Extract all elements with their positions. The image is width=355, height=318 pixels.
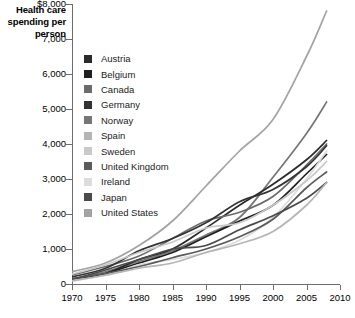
legend-item-label: Austria (101, 53, 131, 64)
legend-item[interactable]: Austria (84, 51, 169, 66)
legend-item-label: Belgium (101, 69, 135, 80)
legend-item-label: United Kingdom (101, 161, 169, 172)
legend-swatch-icon (84, 55, 92, 63)
legend-item[interactable]: Canada (84, 82, 169, 97)
legend-item-label: Ireland (101, 176, 130, 187)
legend-item[interactable]: Japan (84, 190, 169, 205)
y-axis-tick-label: 6,000 (6, 68, 66, 79)
legend-swatch-icon (84, 209, 92, 217)
legend-item[interactable]: Germany (84, 97, 169, 112)
legend-swatch-icon (84, 85, 92, 93)
x-axis-tick (139, 285, 140, 290)
x-axis-tick (307, 285, 308, 290)
legend-item-label: Japan (101, 192, 127, 203)
x-axis-tick (273, 285, 274, 290)
legend-item-label: Canada (101, 84, 134, 95)
y-axis-tick-label: 3,000 (6, 173, 66, 184)
legend-item[interactable]: Belgium (84, 66, 169, 81)
legend-swatch-icon (84, 101, 92, 109)
legend-item[interactable]: Spain (84, 128, 169, 143)
legend-item-label: Spain (101, 130, 125, 141)
y-axis-tick-label: 1,000 (6, 243, 66, 254)
x-axis-tick (240, 285, 241, 290)
legend-item-label: Germany (101, 99, 140, 110)
x-axis-tick (173, 285, 174, 290)
x-axis-tick (106, 285, 107, 290)
legend-item[interactable]: United Kingdom (84, 159, 169, 174)
legend-item[interactable]: United States (84, 205, 169, 220)
x-axis-tick-label: 2010 (320, 292, 355, 303)
legend-item[interactable]: Ireland (84, 174, 169, 189)
legend-item[interactable]: Sweden (84, 143, 169, 158)
y-axis-tick-label: 2,000 (6, 208, 66, 219)
legend-swatch-icon (84, 116, 92, 124)
y-axis-tick-label: $8,000 (6, 0, 66, 9)
legend-item-label: United States (101, 207, 158, 218)
x-axis-tick (72, 285, 73, 290)
y-axis-tick-label: 7,000 (6, 33, 66, 44)
legend-swatch-icon (84, 132, 92, 140)
legend-swatch-icon (84, 162, 92, 170)
x-axis-tick (340, 285, 341, 290)
y-axis-tick-label: 5,000 (6, 103, 66, 114)
legend-item-label: Sweden (101, 146, 135, 157)
legend-swatch-icon (84, 178, 92, 186)
legend-item[interactable]: Norway (84, 113, 169, 128)
y-axis-tick-label: 4,000 (6, 138, 66, 149)
y-axis-tick-label: 0 (6, 278, 66, 289)
legend-swatch-icon (84, 193, 92, 201)
x-axis-tick (206, 285, 207, 290)
legend-swatch-icon (84, 70, 92, 78)
legend-item-label: Norway (101, 115, 133, 126)
legend-swatch-icon (84, 147, 92, 155)
legend: AustriaBelgiumCanadaGermanyNorwaySpainSw… (84, 51, 169, 220)
